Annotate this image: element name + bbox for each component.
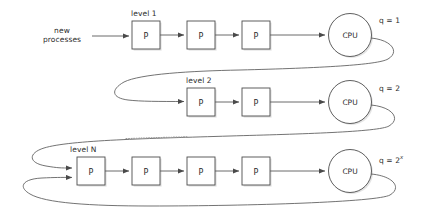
process-box-label: P [254,32,259,41]
quantum-label-level-2: q = 2 [379,84,400,93]
process-box-label: P [199,32,204,41]
level-n-label: level N [70,145,97,154]
process-box: P [242,21,272,51]
quantum-label-level-1: q = 1 [379,16,400,25]
process-box-label: P [199,168,204,177]
process-box-label: P [144,168,149,177]
cpu-node: CPU [329,150,374,195]
cpu-label: CPU [342,98,357,107]
cpu-node: CPU [329,14,374,59]
quantum-value-2: 2 [395,84,400,93]
level-1-label: level 1 [131,9,157,18]
process-box: P [187,21,217,51]
process-box-label: P [144,32,149,41]
level-n-italic: N [91,145,97,154]
cpu-label: CPU [342,31,357,40]
process-box-label: P [199,99,204,108]
process-box: P [187,88,217,118]
process-box-label: P [254,99,259,108]
process-box-label: P [89,168,94,177]
process-box: P [242,88,272,118]
process-box: P [242,157,272,187]
quantum-exponent-n: x [400,154,403,160]
process-box-label: P [254,168,259,177]
process-box: P [77,157,107,187]
process-box: P [132,157,162,187]
cpu-label: CPU [342,167,357,176]
quantum-value-1: 1 [395,16,400,25]
process-box: P [187,157,217,187]
quantum-label-level-n: q = 2x [379,153,403,165]
level-n-group: P P P P CPU [23,150,395,207]
new-processes-label: new processes [32,26,92,44]
process-box: P [132,21,162,51]
cpu-node: CPU [329,81,374,126]
level-2-label: level 2 [186,76,212,85]
